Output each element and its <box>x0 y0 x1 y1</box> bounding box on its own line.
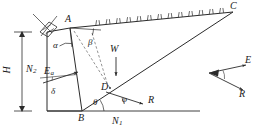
point-D-tick <box>109 87 111 89</box>
label-angle-theta: θ <box>93 98 97 107</box>
label-force-N2-subscript: 2 <box>33 67 37 75</box>
label-point-D: D <box>101 82 108 92</box>
label-force-W: W <box>110 44 118 54</box>
label-force-N1-base: N <box>112 115 119 126</box>
theta-angle-arc <box>100 100 104 111</box>
alpha-angle-arc <box>60 28 72 47</box>
inset-force-triangle <box>209 65 246 90</box>
backfill-surface-AC <box>70 12 233 28</box>
label-force-Ea-subscript: a <box>50 69 54 77</box>
label-force-N2: N2 <box>26 64 36 75</box>
label-angle-beta: β <box>88 38 92 47</box>
label-force-N1: N1 <box>112 116 122 127</box>
label-point-A: A <box>65 14 71 24</box>
label-force-Ea: Ea <box>44 66 54 77</box>
wall-crest-fixity-symbol <box>33 14 57 37</box>
label-force-N1-subscript: 1 <box>119 119 123 127</box>
label-angle-phi: φ <box>122 95 127 104</box>
diagram-canvas <box>0 0 259 135</box>
label-dimension-H: H <box>2 66 12 73</box>
label-force-N2-base: N <box>26 63 33 74</box>
label-point-B: B <box>78 113 84 123</box>
label-inset-R: R <box>239 89 245 99</box>
label-angle-delta: δ <box>51 87 55 96</box>
label-inset-E: E <box>245 55 251 65</box>
ground-surcharge-hatch <box>96 8 224 26</box>
figure-root: A B C D α β δ θ φ W R Ea N1 N2 H E R <box>0 0 259 135</box>
label-point-C: C <box>230 1 237 11</box>
failure-plane-BC <box>82 12 233 111</box>
label-angle-alpha: α <box>53 41 58 50</box>
label-force-R: R <box>148 95 154 105</box>
